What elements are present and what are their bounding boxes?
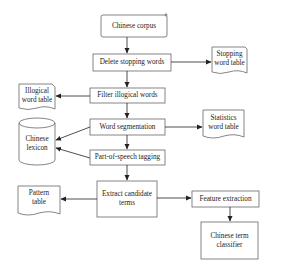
pattern-table-text-2: table xyxy=(32,198,46,207)
pos-tagging-text: Part-of-speech tagging xyxy=(95,153,160,162)
classifier-label: Chinese termclassifier xyxy=(201,222,258,259)
classifier-text-1: Chinese term xyxy=(210,232,248,241)
delete-stopping-text: Delete stopping words xyxy=(100,58,165,67)
statistics-table-label: Statisticsword table xyxy=(203,111,244,134)
stopping-table-label: Stoppingword table xyxy=(212,48,247,69)
extract-text-1: Extract candidate xyxy=(102,190,152,199)
word-seg-label: Word segmentation xyxy=(90,119,165,135)
statistics-table-text-1: Statistics xyxy=(211,114,237,123)
feature-extraction-text: Feature extraction xyxy=(199,195,251,204)
statistics-table-text-2: word table xyxy=(208,123,239,132)
illogical-table-label: Illogicalword table xyxy=(19,85,55,106)
illogical-table-text-1: Illogical xyxy=(25,87,49,96)
filter-illogical-text: Filter illogical words xyxy=(97,91,157,100)
feature-extraction-label: Feature extraction xyxy=(192,191,259,207)
word-seg-text: Word segmentation xyxy=(100,123,156,132)
classifier-text-2: classifier xyxy=(217,241,243,250)
pattern-table-label: Patterntable xyxy=(18,186,60,210)
corpus-text: Chinese corpus xyxy=(112,22,156,31)
stopping-table-text-1: Stopping xyxy=(217,50,243,59)
lexicon-text-1: Chinese xyxy=(25,135,48,144)
lexicon-text-2: lexicon xyxy=(26,144,47,153)
lexicon-label: Chineselexicon xyxy=(19,130,55,158)
stopping-table-text-2: word table xyxy=(214,59,245,68)
corpus-label: Chinese corpus xyxy=(101,15,167,37)
illogical-table-text-2: word table xyxy=(22,96,53,105)
delete-stopping-label: Delete stopping words xyxy=(93,54,171,71)
pattern-table-text-1: Pattern xyxy=(29,189,49,198)
pos-tagging-label: Part-of-speech tagging xyxy=(90,150,165,165)
extract-label: Extract candidateterms xyxy=(97,181,157,217)
extract-text-2: terms xyxy=(119,199,135,208)
filter-illogical-label: Filter illogical words xyxy=(90,88,165,103)
